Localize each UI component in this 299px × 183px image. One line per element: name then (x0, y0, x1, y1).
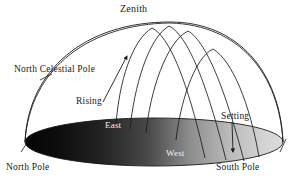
label-east: East (105, 121, 121, 130)
label-rising: Rising (76, 97, 102, 107)
horizon-plane (25, 118, 283, 166)
celestial-sphere-diagram: Zenith North Celestial Pole Rising Setti… (0, 0, 299, 183)
label-south-pole: South Pole (216, 163, 259, 173)
diagram-canvas (0, 0, 299, 183)
label-setting: Setting (221, 112, 249, 122)
label-west: West (166, 149, 185, 158)
label-north-celestial-pole: North Celestial Pole (14, 65, 95, 75)
label-zenith: Zenith (120, 4, 147, 14)
label-north-pole: North Pole (6, 163, 49, 173)
